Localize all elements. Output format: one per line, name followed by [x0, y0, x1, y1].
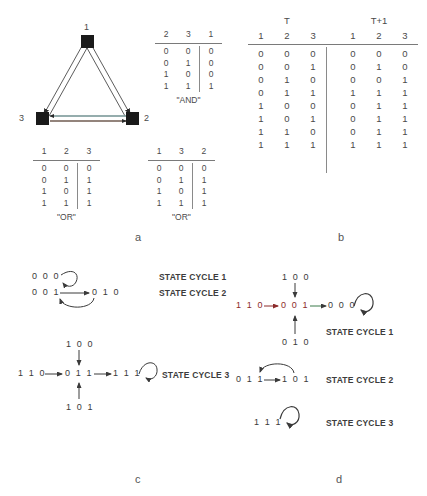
state-cell: 1	[274, 73, 300, 86]
state-cell: 0	[300, 73, 327, 86]
or2-cell: 1	[193, 186, 216, 198]
state-cell: 0	[340, 60, 366, 73]
state-cell: 1	[248, 138, 274, 151]
state-cell: 1	[300, 138, 327, 151]
graph-node-2[interactable]	[126, 112, 139, 125]
state-hdr-l1: 2	[274, 29, 300, 45]
table-row: 0 0 0	[155, 46, 222, 58]
panel-c-cycle1-state: 0 0 0	[32, 271, 60, 281]
table-row: 0 1 0	[155, 58, 222, 70]
graph-node-1[interactable]	[81, 35, 94, 48]
panel-b-state-table: T T+1 1 2 3 1 2 3 0 0 0 0 0 0 0 0	[248, 14, 418, 173]
or2-table-caption: "OR"	[148, 212, 215, 222]
table-row: 1 1 1	[148, 198, 215, 210]
or2-cell: 0	[193, 163, 216, 175]
state-cell: 1	[366, 99, 392, 112]
state-cell: 1	[300, 60, 327, 73]
state-cell: 0	[340, 125, 366, 138]
or1-cell: 1	[78, 198, 101, 210]
and-cell: 0	[200, 58, 223, 70]
state-cell: 0	[300, 47, 327, 60]
table-row: 0 0 0	[148, 163, 215, 175]
panel-label-b: b	[338, 231, 344, 243]
state-cell: 0	[248, 60, 274, 73]
state-cell: 0	[340, 112, 366, 125]
state-cell: 1	[300, 86, 327, 99]
panel-label-c: c	[135, 473, 141, 485]
state-cell: 0	[366, 73, 392, 86]
state-cell: 1	[248, 112, 274, 125]
table-row: 1 1 1 1 1 1	[248, 138, 418, 151]
state-cell: 0	[274, 47, 300, 60]
table-row: 1 1 0 0 1 1	[248, 125, 418, 138]
state-cell: 0	[340, 47, 366, 60]
state-cell: 1	[392, 86, 418, 99]
panel-c-cycle2-right-state: 0 1 0	[92, 287, 120, 297]
or1-header-2: 3	[78, 145, 101, 161]
panel-c-cycle3-top-state: 1 0 0	[66, 339, 94, 349]
state-cell: 1	[340, 138, 366, 151]
and-cell: 1	[155, 81, 177, 93]
table-row: 1 0 0	[155, 69, 222, 81]
state-cell: 0	[274, 112, 300, 125]
state-hdr-r0: 1	[340, 29, 366, 45]
panel-d-cycle3-state: 1 1 1	[254, 417, 282, 427]
or1-cell: 0	[33, 163, 55, 175]
and-truth-table: 2 3 1 0 0 0 0 1 0 1 0 0 1 1 1 "AND"	[155, 28, 222, 105]
panel-d-cycle1-mid-state: 0 0 1	[281, 300, 309, 310]
graph-node-3-label: 3	[19, 113, 24, 123]
state-cell: 1	[366, 112, 392, 125]
or1-cell: 1	[55, 198, 78, 210]
or1-cell: 1	[55, 175, 78, 187]
state-table-group-left: T	[274, 14, 300, 29]
table-row: 0 1 1	[148, 175, 215, 187]
graph-node-3[interactable]	[36, 112, 49, 125]
state-cell: 0	[392, 60, 418, 73]
and-header-0: 2	[155, 28, 177, 44]
graph-node-2-label: 2	[144, 113, 149, 123]
state-cell: 1	[274, 125, 300, 138]
panel-d-cycle2-right-state: 1 0 1	[282, 374, 310, 384]
panel-c-cycle3-bottom-state: 1 0 1	[66, 402, 94, 412]
and-cell: 0	[177, 46, 200, 58]
and-cell: 0	[177, 69, 200, 81]
or1-cell: 0	[55, 163, 78, 175]
state-cell: 0	[366, 47, 392, 60]
table-row: 1 0 1	[33, 186, 100, 198]
panel-d-state-cycles: 1 0 0 1 1 0 0 0 1 0 0 0 0 1 0 STATE CYCL…	[236, 262, 426, 442]
state-cell: 0	[274, 60, 300, 73]
or2-cell: 1	[193, 175, 216, 187]
and-cell: 0	[200, 69, 223, 81]
or1-cell: 0	[33, 175, 55, 187]
table-row: 0 1 0 0 0 1	[248, 73, 418, 86]
panel-c-cycle2-left-state: 0 0 1	[32, 287, 60, 297]
panel-label-a: a	[135, 231, 141, 243]
table-row: 1 1 1	[33, 198, 100, 210]
panel-d-cycle1-bottom-state: 0 1 0	[282, 337, 310, 347]
panel-d-cycle1-right-state: 0 0 0	[328, 300, 356, 310]
state-cell: 0	[392, 47, 418, 60]
and-cell: 1	[177, 58, 200, 70]
state-cell: 1	[366, 60, 392, 73]
panel-d-cycle1-left-state: 1 1 0	[236, 300, 264, 310]
state-cell: 0	[248, 73, 274, 86]
or2-cell: 1	[148, 186, 170, 198]
panel-d-cycle2-label: STATE CYCLE 2	[326, 375, 393, 385]
or2-cell: 1	[193, 198, 216, 210]
or2-cell: 0	[148, 175, 170, 187]
state-cell: 0	[300, 125, 327, 138]
panel-a-network-graph: 1 3 2	[18, 22, 148, 132]
panel-c-cycle3-mid-state: 0 1 1	[65, 368, 93, 378]
table-row: 1 1 1	[155, 81, 222, 93]
table-row: 1 0 1	[148, 186, 215, 198]
state-hdr-l2: 3	[300, 29, 327, 45]
state-hdr-r2: 3	[392, 29, 418, 45]
panel-d-cycle2-left-state: 0 1 1	[236, 374, 264, 384]
table-row: 1 0 0 0 1 1	[248, 99, 418, 112]
panel-d-arrows	[236, 262, 426, 442]
or2-header-0: 1	[148, 145, 170, 161]
or-truth-table-2: 1 3 2 0 0 0 0 1 1 1 0 1 1 1 1 "OR"	[148, 145, 215, 222]
or1-cell: 0	[78, 163, 101, 175]
state-cell: 1	[248, 125, 274, 138]
or2-header-2: 2	[193, 145, 216, 161]
